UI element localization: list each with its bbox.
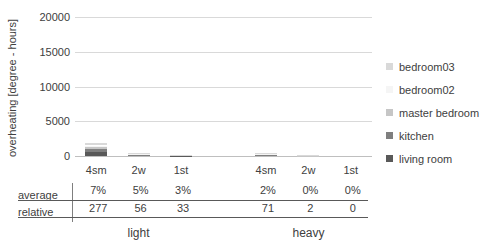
bar-segment-bedroom03-4 (297, 155, 319, 156)
bar-segment-living-room-1 (128, 155, 150, 156)
y-tick-label-10000: 10000 (26, 81, 70, 93)
table-line-under-average (18, 200, 368, 201)
category-label-3: 4sm (245, 164, 287, 176)
table-cell-average-2: 3% (162, 184, 204, 196)
gridline-20000 (75, 17, 372, 18)
table-cell-relative-2: 33 (162, 202, 204, 214)
y-axis-title: overheating [degree - hours] (6, 0, 20, 188)
gridline-10000 (75, 87, 372, 88)
table-cell-average-5: 0% (332, 184, 374, 196)
group-label-light: light (96, 226, 181, 240)
legend-swatch-icon (386, 109, 393, 116)
bar-segment-kitchen-0 (85, 149, 107, 152)
y-tick-label-5000: 5000 (26, 115, 70, 127)
bar-segment-living-room-3 (255, 155, 277, 156)
bar-segment-bedroom03-3 (255, 153, 277, 154)
table-cell-relative-3: 71 (247, 202, 289, 214)
bar-segment-kitchen-3 (255, 155, 277, 156)
table-cell-average-3: 2% (247, 184, 289, 196)
category-label-5: 1st (330, 164, 372, 176)
legend-item-master-bedroom: master bedroom (386, 101, 479, 124)
gridline-5000 (75, 121, 372, 122)
group-label-heavy: heavy (266, 226, 351, 240)
bar-segment-bedroom03-2 (170, 155, 192, 156)
legend-item-kitchen: kitchen (386, 124, 434, 147)
category-label-2: 1st (160, 164, 202, 176)
table-cell-average-4: 0% (289, 184, 331, 196)
table-line-under-relative (18, 217, 368, 218)
legend-item-living-room: living room (386, 147, 452, 170)
table-cell-relative-5: 0 (332, 202, 374, 214)
x-axis-line (75, 156, 372, 157)
y-tick-label-15000: 15000 (26, 46, 70, 58)
bar-segment-master-bedroom-0 (85, 147, 107, 149)
category-label-1: 2w (117, 164, 159, 176)
table-cell-average-0: 7% (77, 184, 119, 196)
category-label-4: 2w (287, 164, 329, 176)
bar-segment-bedroom02-0 (85, 146, 107, 148)
table-cell-relative-1: 56 (119, 202, 161, 214)
bar-segment-bedroom03-1 (128, 153, 150, 154)
bar-segment-kitchen-1 (128, 155, 150, 156)
legend-item-bedroom03: bedroom03 (386, 55, 455, 78)
table-cell-relative-0: 277 (77, 202, 119, 214)
bar-segment-living-room-0 (85, 152, 107, 156)
gridline-15000 (75, 52, 372, 53)
legend-label: bedroom03 (399, 61, 455, 73)
bar-segment-bedroom03-0 (85, 143, 107, 145)
legend-label: master bedroom (399, 107, 479, 119)
y-tick-label-20000: 20000 (26, 11, 70, 23)
legend-swatch-icon (386, 155, 393, 162)
legend-label: kitchen (399, 130, 434, 142)
legend-label: living room (399, 153, 452, 165)
legend-swatch-icon (386, 63, 393, 70)
table-cell-average-1: 5% (119, 184, 161, 196)
legend-item-bedroom02: bedroom02 (386, 78, 455, 101)
legend-swatch-icon (386, 86, 393, 93)
legend-swatch-icon (386, 132, 393, 139)
category-label-0: 4sm (75, 164, 117, 176)
chart-screenshot: overheating [degree - hours] 20000150001… (0, 0, 500, 246)
y-tick-label-0: 0 (26, 150, 70, 162)
table-cell-relative-4: 2 (289, 202, 331, 214)
legend-label: bedroom02 (399, 84, 455, 96)
